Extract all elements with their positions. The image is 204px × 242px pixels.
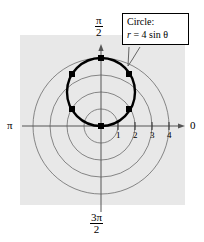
callout-box: Circle: r = 4 sin θ — [122, 13, 189, 45]
curve-point-theta-150 — [69, 106, 75, 112]
curve-point-theta-90 — [98, 55, 104, 61]
axis-label-pi-over-2: π 2 — [95, 15, 103, 38]
equation-relation: = — [133, 29, 139, 40]
tick-label-2: 2 — [133, 130, 138, 140]
fraction-three-pi-over-2: 3π 2 — [90, 212, 103, 235]
callout-title: Circle: — [127, 16, 184, 29]
callout-equation: r = 4 sin θ — [127, 29, 184, 42]
polar-plot-figure: Circle: r = 4 sin θ π 2 3π 2 π 0 1 2 3 4 — [0, 0, 204, 242]
equation-angle: θ — [163, 29, 168, 40]
tick-label-1: 1 — [116, 130, 121, 140]
axis-label-pi: π — [7, 119, 13, 131]
curve-point-theta-30 — [126, 106, 132, 112]
tick-label-3: 3 — [150, 130, 155, 140]
curve-point-theta-60 — [126, 71, 132, 77]
curve-point-theta-120 — [69, 71, 75, 77]
equation-function: sin — [149, 29, 161, 40]
fraction-pi-over-2: π 2 — [95, 15, 103, 38]
axis-label-three-pi-over-2: 3π 2 — [90, 212, 103, 235]
equation-coefficient: 4 — [142, 29, 147, 40]
curve-point-theta-0 — [98, 123, 104, 129]
tick-label-4: 4 — [167, 130, 172, 140]
fraction-denominator: 2 — [95, 27, 103, 38]
fraction-denominator: 2 — [90, 224, 103, 235]
equation-variable: r — [127, 29, 131, 40]
axis-label-zero: 0 — [190, 119, 196, 131]
